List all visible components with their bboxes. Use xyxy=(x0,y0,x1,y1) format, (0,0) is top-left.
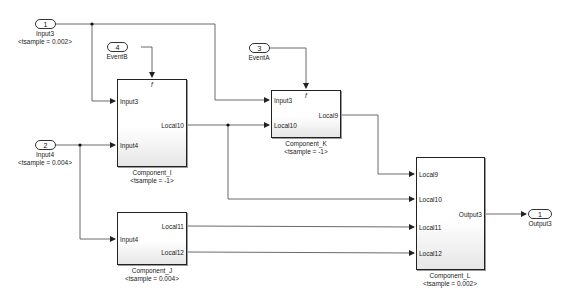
inport-input3-sample: <tsample = 0.002> xyxy=(18,38,72,46)
pin-input3: Input3 xyxy=(274,97,292,105)
branch-point xyxy=(226,123,229,126)
outport-output3[interactable]: 1 xyxy=(528,209,552,219)
line-local9-to-l xyxy=(341,115,414,174)
block-component-j-sample: <tsample = 0.004> xyxy=(125,275,179,283)
line-eventA-trigger xyxy=(269,48,306,88)
inport-input4-label: Input4 xyxy=(36,151,54,159)
inport-eventB-label: EventB xyxy=(107,53,128,61)
trigger-icon: f xyxy=(151,81,153,88)
pin-local9: Local9 xyxy=(419,171,438,179)
pin-local10: Local10 xyxy=(161,122,184,130)
pin-local10: Local10 xyxy=(274,122,297,130)
line-input4-to-j xyxy=(80,145,115,239)
inport-eventB[interactable]: 4 xyxy=(107,42,128,52)
trigger-icon: f xyxy=(305,92,307,99)
block-component-k[interactable]: f Input3 Local10 Local9 xyxy=(271,90,341,138)
pin-output3: Output3 xyxy=(459,211,482,219)
block-component-k-sample: <tsample = -1> xyxy=(284,148,328,156)
inport-eventA-label: EventA xyxy=(249,54,270,62)
inport-input4-sample: <tsample = 0.004> xyxy=(18,159,72,167)
block-component-i[interactable]: f Input3 Input4 Local10 xyxy=(117,79,187,167)
pin-local11: Local11 xyxy=(419,224,441,232)
pin-local9: Local9 xyxy=(319,112,338,120)
line-local11-to-l xyxy=(187,226,414,227)
inport-input3[interactable]: 1 xyxy=(35,19,56,29)
branch-point xyxy=(78,143,81,146)
line-input3-to-i xyxy=(92,24,115,101)
block-component-i-name: Component_I xyxy=(132,169,171,177)
inport-input4[interactable]: 2 xyxy=(35,140,56,150)
line-local12-to-l xyxy=(187,252,414,253)
pin-local12: Local12 xyxy=(161,249,184,257)
pin-input4: Input4 xyxy=(120,236,138,244)
pin-local11: Local11 xyxy=(162,223,184,231)
inport-eventA[interactable]: 3 xyxy=(249,43,270,53)
block-component-l-sample: <tsample = 0.002> xyxy=(423,280,477,288)
block-component-j-name: Component_J xyxy=(132,267,172,275)
block-component-i-sample: <tsample = -1> xyxy=(130,177,174,185)
pin-input3: Input3 xyxy=(120,98,138,106)
pin-local12: Local12 xyxy=(419,250,442,258)
block-component-l-name: Component_L xyxy=(430,272,471,280)
outport-output3-label: Output3 xyxy=(528,220,551,228)
block-component-l[interactable]: Local9 Local10 Local11 Local12 Output3 xyxy=(416,157,485,270)
block-component-j[interactable]: Input4 Local11 Local12 xyxy=(117,212,187,265)
block-component-k-name: Component_K xyxy=(285,140,327,148)
inport-input3-label: Input3 xyxy=(36,30,54,38)
line-eventB-trigger xyxy=(141,47,152,77)
pin-input4: Input4 xyxy=(120,142,138,150)
pin-local10: Local10 xyxy=(419,196,442,204)
branch-point xyxy=(90,22,93,25)
